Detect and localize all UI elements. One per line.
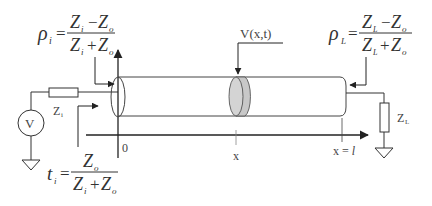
origin-label: 0 [122,141,128,155]
load-circuit: Z L [346,93,409,158]
svg-text:Z: Z [98,12,109,32]
svg-text:Z: Z [83,151,94,171]
svg-text:L: L [405,118,409,126]
end-label: x = l [333,144,356,158]
load-impedance-label: Z [397,111,404,125]
svg-text:Z: Z [98,35,109,55]
source-impedance-label: Z [53,104,60,118]
source-label: V [25,116,35,131]
position-label: x [233,149,239,163]
svg-text:i: i [84,186,87,196]
svg-text:Z: Z [101,174,112,194]
svg-text:Z: Z [391,12,402,32]
rho-i-subscript: i [49,35,52,46]
svg-text:=: = [348,24,358,43]
load-resistor-icon [380,103,389,132]
wave-pointer-arrow [238,43,283,74]
source-circuit: V Z i [18,88,118,170]
t-i-pointer-arrow [78,106,98,147]
svg-text:o: o [112,186,117,196]
axes: 0 [86,50,368,158]
svg-text:o: o [109,47,114,57]
transmission-line-diagram: ρ i = Z i − Z o Z i + Z o ρ L = Z L − Z … [0,0,432,206]
svg-text:+: + [90,175,100,194]
svg-text:i: i [54,176,57,186]
svg-text:Z: Z [391,35,402,55]
svg-text:Z: Z [70,35,81,55]
voltage-slice-disk [229,77,250,116]
svg-text:i: i [61,111,63,119]
svg-text:Z: Z [362,12,373,32]
rho-i-pointer-arrow [95,57,114,84]
svg-text:+: + [87,36,97,55]
svg-text:Z: Z [70,12,81,32]
equals-sign: = [56,24,66,43]
svg-text:o: o [402,47,407,57]
wave-label-group: V(x,t) [238,26,283,74]
ground-icon [375,148,393,158]
t-i-equation: t i = Z o Z i + Z o [47,151,118,196]
right-end-cap [340,77,346,116]
svg-text:+: + [380,36,390,55]
svg-text:Z: Z [73,174,84,194]
svg-text:−: − [381,13,391,32]
rho-L-equation: ρ L = Z L − Z o Z L + Z o [328,12,412,57]
wave-label: V(x,t) [240,26,271,41]
svg-text:−: − [88,13,98,32]
transmission-line-cylinder: x x = l [111,77,356,163]
rho-L-pointer-arrow [350,57,366,85]
svg-text:L: L [340,36,346,46]
svg-text:L: L [372,48,378,57]
svg-text:Z: Z [362,35,373,55]
svg-text:i: i [81,47,84,57]
svg-text:ρ: ρ [328,22,339,45]
ground-icon [22,160,40,170]
rho-i-symbol: ρ [37,22,48,45]
rho-i-equation: ρ i = Z i − Z o Z i + Z o [37,12,115,57]
source-resistor-icon [49,88,78,97]
svg-text:t: t [47,163,53,184]
svg-text:=: = [60,164,70,183]
